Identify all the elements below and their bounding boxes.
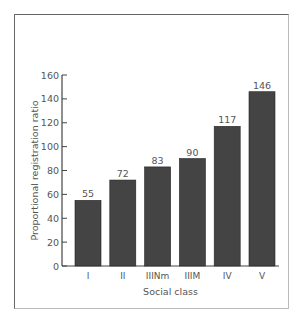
- y-tick-label: 120: [41, 117, 59, 128]
- y-tick-label: 20: [47, 237, 59, 248]
- y-axis-title: Proportional registration ratio: [29, 100, 40, 240]
- x-tick-label: I: [87, 271, 90, 281]
- x-tick-label: IIINm: [146, 271, 169, 281]
- x-axis-title: Social class: [143, 286, 198, 297]
- bar: [214, 126, 240, 266]
- y-tick-label: 0: [53, 261, 59, 272]
- bar: [75, 200, 101, 266]
- bar-value-label: 90: [186, 147, 198, 158]
- x-tick-label: V: [259, 271, 266, 281]
- bar-value-label: 117: [218, 114, 236, 125]
- y-tick-label: 40: [47, 213, 59, 224]
- x-tick-label: II: [120, 271, 125, 281]
- bar: [249, 92, 275, 266]
- y-tick-label: 100: [41, 141, 59, 152]
- x-tick-label: IIIM: [185, 271, 201, 281]
- bar-value-label: 83: [152, 155, 164, 166]
- y-tick-label: 140: [41, 93, 59, 104]
- bar-chart: 02040608010012014016055I72II83IIINm90III…: [0, 0, 299, 321]
- bar-value-label: 72: [117, 168, 129, 179]
- bar: [179, 159, 205, 266]
- bar: [145, 167, 171, 266]
- bar: [110, 180, 136, 266]
- y-tick-label: 60: [47, 189, 59, 200]
- bar-value-label: 146: [253, 80, 271, 91]
- bar-value-label: 55: [82, 188, 94, 199]
- y-tick-label: 160: [41, 70, 59, 81]
- x-tick-label: IV: [223, 271, 233, 281]
- y-tick-label: 80: [47, 165, 59, 176]
